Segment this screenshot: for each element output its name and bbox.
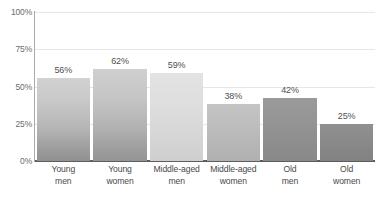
category-label: Middle-agedmen <box>148 164 205 187</box>
bar-slot: 25% <box>320 12 373 161</box>
bar[interactable] <box>37 78 90 161</box>
bar-value-label: 25% <box>320 111 373 121</box>
category-label-line: men <box>148 176 205 188</box>
bar[interactable] <box>263 98 316 161</box>
y-tick-label: 75% <box>2 44 32 54</box>
category-axis-labels: YoungmenYoungwomenMiddle-agedmenMiddle-a… <box>35 164 375 198</box>
bar[interactable] <box>150 73 203 161</box>
category-label-line: Old <box>318 164 375 176</box>
category-label-line: women <box>205 176 262 188</box>
category-label-line: men <box>35 176 92 188</box>
bar[interactable] <box>320 124 373 161</box>
bar-slot: 62% <box>93 12 146 161</box>
y-tick-label: 0% <box>2 156 32 166</box>
category-label-line: women <box>318 176 375 188</box>
bar-value-label: 42% <box>263 85 316 95</box>
category-label-line: Middle-aged <box>148 164 205 176</box>
bar-value-label: 59% <box>150 60 203 70</box>
category-label-line: women <box>92 176 149 188</box>
bar[interactable] <box>207 104 260 161</box>
y-tick-label: 100% <box>2 7 32 17</box>
bar[interactable] <box>93 69 146 161</box>
bar-slot: 38% <box>207 12 260 161</box>
category-label: Youngmen <box>35 164 92 187</box>
bar-value-label: 38% <box>207 91 260 101</box>
category-label-line: Old <box>262 164 319 176</box>
category-label: Middle-agedwomen <box>205 164 262 187</box>
category-label: Oldmen <box>262 164 319 187</box>
y-tick-label: 50% <box>2 82 32 92</box>
bars-group: 56%62%59%38%42%25% <box>35 12 375 161</box>
bar-slot: 42% <box>263 12 316 161</box>
plot-area: 100%75%50%25%0% 56%62%59%38%42%25% <box>35 12 375 161</box>
category-label-line: Young <box>35 164 92 176</box>
bar-value-label: 62% <box>93 56 146 66</box>
category-label-line: Middle-aged <box>205 164 262 176</box>
bar-slot: 56% <box>37 12 90 161</box>
bar-chart: 100%75%50%25%0% 56%62%59%38%42%25% Young… <box>0 0 383 200</box>
category-label-line: Young <box>92 164 149 176</box>
y-tick-label: 25% <box>2 119 32 129</box>
category-label: Oldwomen <box>318 164 375 187</box>
bar-slot: 59% <box>150 12 203 161</box>
category-label: Youngwomen <box>92 164 149 187</box>
bar-value-label: 56% <box>37 65 90 75</box>
category-label-line: men <box>262 176 319 188</box>
